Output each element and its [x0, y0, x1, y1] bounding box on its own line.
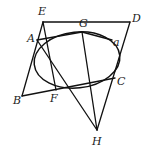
- geometry-diagram: E A B F C D G H a: [0, 0, 150, 153]
- label-F: F: [49, 92, 58, 105]
- label-A: A: [26, 32, 35, 45]
- label-C: C: [117, 75, 126, 88]
- line-AH: [37, 40, 97, 130]
- label-D: D: [131, 12, 141, 25]
- line-GH: [82, 32, 97, 130]
- label-a: a: [113, 36, 120, 49]
- ellipse: [31, 28, 122, 93]
- label-H: H: [91, 135, 102, 148]
- label-B: B: [12, 94, 21, 107]
- label-E: E: [37, 5, 46, 18]
- line-AG: [37, 32, 82, 40]
- label-G: G: [79, 17, 88, 30]
- diagram-canvas: E A B F C D G H a: [0, 0, 150, 153]
